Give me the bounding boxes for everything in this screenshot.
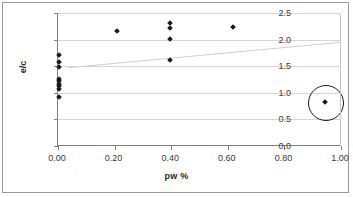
gridline: [58, 119, 341, 120]
x-tick-label: 1.00: [331, 154, 349, 163]
y-tick-label: 1.0: [278, 89, 291, 98]
plot-area: [57, 13, 340, 146]
x-tick-mark: [115, 146, 116, 150]
x-axis-title: pw %: [0, 171, 353, 181]
x-tick-label: 0.40: [161, 154, 179, 163]
x-tick-label: 0.80: [275, 154, 293, 163]
gridline: [58, 66, 341, 67]
y-tick-label: 2.0: [278, 36, 291, 45]
y-axis-title: e/c: [18, 50, 28, 84]
y-tick-label: 1.5: [278, 62, 291, 71]
gridline: [58, 40, 341, 41]
x-tick-label: 0.00: [48, 154, 66, 163]
y-tick-mark: [54, 93, 58, 94]
x-tick-label: 0.60: [218, 154, 236, 163]
gridline: [58, 93, 341, 94]
x-tick-mark: [228, 146, 229, 150]
y-tick-label: 0.0: [278, 142, 291, 151]
y-tick-label: 0.5: [278, 115, 291, 124]
x-tick-label: 0.20: [105, 154, 123, 163]
y-tick-mark: [54, 119, 58, 120]
x-tick-mark: [171, 146, 172, 150]
y-tick-label: 2.5: [278, 9, 291, 18]
gridline: [58, 13, 341, 14]
trendline: [58, 13, 341, 146]
y-tick-mark: [54, 13, 58, 14]
chart-figure: 0.00.51.01.52.02.5 0.000.200.400.600.801…: [0, 0, 353, 197]
plot-right-edge: [340, 13, 341, 146]
x-tick-mark: [58, 146, 59, 150]
y-tick-mark: [54, 40, 58, 41]
x-tick-mark: [341, 146, 342, 150]
